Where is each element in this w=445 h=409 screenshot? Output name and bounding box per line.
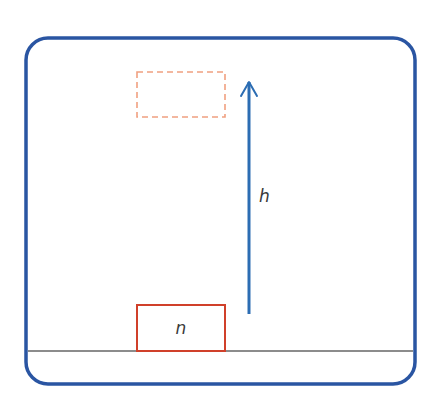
potential-energy-diagram: n h	[0, 0, 445, 409]
final-position-box-dashed	[137, 72, 225, 117]
height-arrow	[241, 82, 257, 314]
height-label: h	[259, 186, 270, 206]
object-label: n	[176, 318, 187, 338]
